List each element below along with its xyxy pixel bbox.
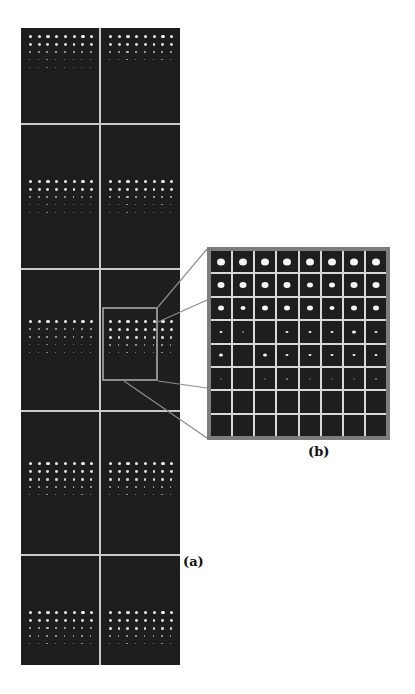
spot: [90, 494, 91, 495]
spot: [161, 470, 164, 473]
spot: [109, 478, 112, 481]
spot: [29, 494, 30, 495]
row-divider-2: [21, 268, 180, 270]
spot: [372, 258, 380, 265]
spot: [144, 196, 146, 198]
spot: [161, 635, 163, 637]
spot: [161, 619, 164, 622]
spot: [73, 212, 74, 213]
grid-cell: [255, 274, 275, 295]
spot: [126, 212, 127, 213]
spot: [90, 643, 91, 644]
spot: [109, 627, 112, 630]
spot: [29, 336, 31, 338]
spot: [153, 478, 156, 481]
spot: [144, 180, 147, 183]
spot: [153, 35, 156, 38]
spot: [29, 188, 32, 191]
spot: [144, 494, 145, 495]
grid-cell: [322, 321, 342, 342]
spot: [170, 212, 171, 213]
spot: [153, 196, 155, 198]
spot: [153, 611, 156, 614]
spot: [55, 486, 57, 488]
spot: [90, 470, 93, 473]
spot: [161, 344, 163, 346]
spot: [64, 212, 65, 213]
spot: [38, 188, 41, 191]
spot: [29, 204, 30, 205]
spot: [153, 462, 156, 465]
spot: [144, 336, 147, 339]
spot: [38, 627, 40, 629]
grid-cell: [255, 321, 275, 342]
spot: [109, 619, 112, 622]
grid-cell: [233, 345, 253, 366]
spot: [73, 204, 74, 205]
spot: [46, 635, 48, 637]
spot: [328, 258, 336, 265]
spot: [81, 635, 83, 637]
spot: [170, 635, 172, 637]
grid-cell: [233, 321, 253, 342]
spot: [118, 51, 120, 53]
spot: [144, 188, 147, 191]
spot: [135, 643, 136, 644]
spot: [46, 212, 47, 213]
spot: [126, 494, 127, 495]
spot: [144, 635, 146, 637]
spot: [29, 212, 30, 213]
spot: [90, 51, 92, 53]
spot: [81, 212, 82, 213]
spot: [126, 635, 128, 637]
spot: [46, 328, 48, 330]
spot: [46, 336, 48, 338]
grid-cell: [322, 415, 342, 436]
grid-cell: [300, 345, 320, 366]
spot: [73, 336, 75, 338]
spot: [307, 306, 313, 311]
spot: [55, 627, 57, 629]
spot: [144, 51, 146, 53]
spot: [221, 378, 222, 379]
spot: [284, 306, 290, 311]
spot: [55, 643, 56, 644]
grid-cell: [300, 251, 320, 272]
spot: [118, 328, 121, 331]
spot: [218, 306, 224, 311]
spot: [118, 627, 121, 630]
spot: [135, 611, 138, 614]
spot: [73, 611, 76, 614]
spot: [170, 320, 173, 323]
spot: [263, 354, 267, 357]
spot: [73, 478, 76, 481]
spot: [170, 643, 171, 644]
spot: [29, 320, 32, 323]
grid-cell: [366, 321, 386, 342]
spot: [161, 180, 164, 183]
spot: [55, 51, 57, 53]
spot: [38, 643, 39, 644]
spot: [55, 35, 58, 38]
grid-cell: [366, 274, 386, 295]
spot: [81, 611, 84, 614]
spot: [350, 282, 357, 288]
spot: [308, 331, 311, 333]
spot: [170, 478, 173, 481]
spot: [81, 51, 83, 53]
spot: [29, 627, 31, 629]
spot: [90, 180, 93, 183]
grid-cell: [233, 251, 253, 272]
spot: [161, 188, 164, 191]
spot: [46, 204, 47, 205]
spot: [55, 344, 56, 345]
spot: [241, 306, 246, 310]
spot: [170, 352, 171, 353]
spot: [38, 344, 39, 345]
spot: [90, 320, 93, 323]
spot: [126, 59, 127, 60]
figure-a-image-strip: [21, 28, 180, 665]
spot: [81, 627, 83, 629]
spot: [81, 486, 83, 488]
spot: [73, 35, 76, 38]
